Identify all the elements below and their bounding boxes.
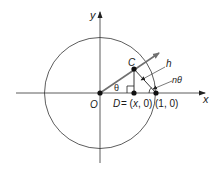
point-unit-label: (1, 0) — [155, 98, 178, 109]
point-d-coords: = (x, 0) — [121, 98, 152, 109]
point-unit — [153, 90, 158, 95]
leader-n-theta — [153, 81, 172, 89]
angle-arc-n-theta — [149, 88, 152, 93]
point-d — [131, 90, 136, 95]
x-axis-label: x — [202, 93, 209, 105]
leader-h-label: h — [166, 58, 172, 69]
point-d-label: D = (x, 0) — [113, 98, 152, 109]
angle-theta-label: θ — [114, 83, 119, 93]
unit-circle-diagram: y x O C θ h nθ D = (x, 0) (1, 0) — [0, 0, 220, 173]
y-axis-label: y — [89, 9, 97, 21]
point-d-letter: D — [113, 98, 120, 109]
segment-c-unit — [134, 69, 156, 93]
point-origin — [97, 90, 102, 95]
point-c-label: C — [128, 57, 136, 68]
origin-label: O — [90, 99, 98, 110]
leader-h — [141, 67, 165, 80]
leader-n-theta-label: nθ — [172, 75, 182, 85]
